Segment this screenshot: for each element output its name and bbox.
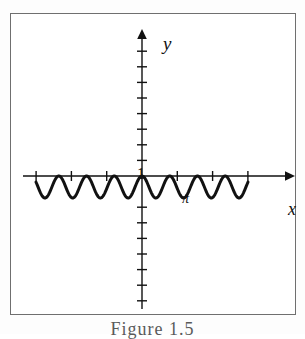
pi-tick-label: π [182, 192, 189, 206]
y-axis-label: y [163, 34, 171, 53]
figure-caption: Figure 1.5 [0, 320, 305, 338]
plot-frame: y x π 1 [10, 13, 296, 315]
coordinate-plot [11, 14, 297, 316]
unit-tick-label: 1 [137, 166, 145, 182]
y-axis-arrowhead [137, 29, 147, 39]
x-axis-arrowhead [285, 171, 295, 181]
x-axis-label: x [288, 200, 296, 218]
